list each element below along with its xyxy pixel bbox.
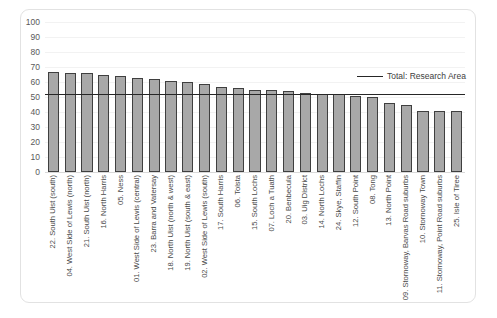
gridline-0 [45, 172, 465, 173]
bar [417, 111, 428, 173]
x-tick-label-slot: 25. Isle of Tiree [448, 175, 465, 300]
bar [182, 82, 193, 172]
bar [283, 91, 294, 172]
x-tick-label: 07. Loch a Tuath [268, 175, 276, 232]
y-tick-10: 10 [31, 153, 40, 162]
x-tick-label-slot: 20. Benbecula [280, 175, 297, 300]
x-tick-label: 24. Skye, Staffin [335, 175, 343, 230]
bar [149, 79, 160, 172]
bar [65, 73, 76, 172]
x-tick-label-slot: 21. South Uist (north) [79, 175, 96, 300]
bar-chart-figure: 1009080706050403020100 Total: Research A… [0, 0, 497, 318]
x-tick-label-slot: 06. Tolsta [230, 175, 247, 300]
y-tick-70: 70 [31, 63, 40, 72]
x-tick-label-slot: 11. Stornoway, Point Road suburbs [431, 175, 448, 300]
x-tick-label: 20. Benbecula [285, 175, 293, 224]
x-tick-label-slot: 15. South Lochs [247, 175, 264, 300]
x-tick-label-slot: 12. South Point [347, 175, 364, 300]
y-tick-50: 50 [31, 93, 40, 102]
legend-label-total-research-area: Total: Research Area [387, 72, 466, 81]
x-tick-label: 05. Ness [117, 175, 125, 205]
x-tick-label-slot: 08. Tong [364, 175, 381, 300]
x-tick-label-slot: 01. West Side of Lewis (central) [129, 175, 146, 300]
x-tick-label: 08. Tong [369, 175, 377, 204]
x-tick-label-slot: 23. Barra and Vatersay [146, 175, 163, 300]
x-tick-label-slot: 03. Uig District [297, 175, 314, 300]
x-tick-label: 01. West Side of Lewis (central) [134, 175, 142, 282]
bar [98, 75, 109, 173]
bar [199, 84, 210, 173]
x-tick-label: 15. South Lochs [251, 175, 259, 230]
x-tick-label: 04. West Side of Lewis (north) [66, 175, 74, 277]
bar [216, 87, 227, 173]
x-tick-label-slot: 13. North Point [381, 175, 398, 300]
x-tick-label: 14. North Lochs [318, 175, 326, 229]
bar [384, 103, 395, 172]
x-tick-label-slot: 02. West Side of Lewis (south) [196, 175, 213, 300]
bar [451, 111, 462, 173]
x-tick-label-slot: 07. Loch a Tuath [263, 175, 280, 300]
bar [233, 88, 244, 172]
bar [434, 111, 445, 173]
bar [48, 72, 59, 173]
y-tick-20: 20 [31, 138, 40, 147]
x-tick-label-slot: 05. Ness [112, 175, 129, 300]
x-tick-label: 06. Tolsta [234, 175, 242, 207]
bar [266, 90, 277, 173]
y-tick-100: 100 [26, 18, 40, 27]
x-axis-tick-labels: 22. South Uist (south)04. West Side of L… [45, 175, 465, 300]
x-tick-label-slot: 09. Stornoway, Barvas Road suburbs [398, 175, 415, 300]
bar [333, 94, 344, 172]
x-tick-label-slot: 10. Stornoway Town [415, 175, 432, 300]
bar [132, 78, 143, 173]
x-tick-label: 11. Stornoway, Point Road suburbs [436, 175, 444, 293]
x-tick-label: 12. South Point [352, 175, 360, 227]
x-tick-label: 09. Stornoway, Barvas Road suburbs [402, 175, 410, 300]
bar [350, 96, 361, 173]
x-tick-label: 23. Barra and Vatersay [150, 175, 158, 253]
x-tick-label: 22. South Uist (south) [50, 175, 58, 248]
x-tick-label: 16. North Harris [100, 175, 108, 229]
x-tick-label-slot: 18. North Uist (north & west) [163, 175, 180, 300]
x-tick-label: 21. South Uist (north) [83, 175, 91, 247]
y-tick-40: 40 [31, 108, 40, 117]
bar [249, 90, 260, 173]
x-tick-label: 18. North Uist (north & west) [167, 175, 175, 271]
x-tick-label: 13. North Point [386, 175, 394, 226]
x-tick-label: 17. South Harris [218, 175, 226, 230]
y-tick-90: 90 [31, 33, 40, 42]
threshold-line-total-research-area [45, 94, 465, 95]
plot-area: 1009080706050403020100 [45, 22, 465, 172]
bars-group [45, 22, 465, 172]
bar [81, 73, 92, 172]
bar [317, 94, 328, 172]
bar [401, 105, 412, 173]
x-tick-label: 25. Isle of Tiree [453, 175, 461, 227]
bar [300, 93, 311, 173]
x-tick-label: 03. Uig District [302, 175, 310, 224]
bar [367, 97, 378, 172]
x-tick-label: 10. Stornoway Town [419, 175, 427, 243]
chart-legend: Total: Research Area [355, 71, 468, 82]
x-tick-label-slot: 04. West Side of Lewis (north) [62, 175, 79, 300]
x-tick-label-slot: 14. North Lochs [314, 175, 331, 300]
y-tick-60: 60 [31, 78, 40, 87]
bar [115, 76, 126, 172]
x-tick-label-slot: 17. South Harris [213, 175, 230, 300]
x-tick-label-slot: 19. North Uist (south & east) [179, 175, 196, 300]
legend-line-swatch-icon [357, 76, 383, 77]
y-tick-30: 30 [31, 123, 40, 132]
y-tick-0: 0 [35, 168, 40, 177]
x-tick-label: 02. West Side of Lewis (south) [201, 175, 209, 278]
x-tick-label-slot: 22. South Uist (south) [45, 175, 62, 300]
y-tick-80: 80 [31, 48, 40, 57]
x-tick-label-slot: 16. North Harris [95, 175, 112, 300]
x-tick-label-slot: 24. Skye, Staffin [331, 175, 348, 300]
x-tick-label: 19. North Uist (south & east) [184, 175, 192, 271]
